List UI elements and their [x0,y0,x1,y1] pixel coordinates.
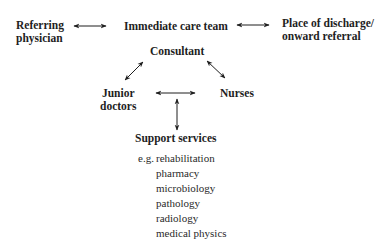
examples-prefix: e.g. [138,151,154,166]
referring-line-2: physician [16,32,64,45]
discharge-line-2: onward referral [282,30,374,43]
example-item: pharmacy [156,166,199,181]
node-nurses: Nurses [220,87,254,100]
referring-line-1: Referring [16,19,64,32]
node-referring-physician: Referring physician [16,19,64,45]
node-consultant: Consultant [150,45,204,58]
example-item: medical physics [156,226,227,241]
node-junior-doctors: Junior doctors [100,87,136,113]
junior-line-2: doctors [100,100,136,113]
example-item: microbiology [156,181,215,196]
arrow-consultant-junior [125,62,143,80]
node-immediate-care-team: Immediate care team [124,20,228,33]
discharge-line-1: Place of discharge/ [282,17,374,30]
example-item: pathology [156,196,200,211]
arrow-consultant-nurses [207,61,225,78]
junior-line-1: Junior [100,87,136,100]
example-item: rehabilitation [156,151,215,166]
example-item: radiology [156,211,198,226]
node-support-services: Support services [135,132,216,145]
node-place-of-discharge: Place of discharge/ onward referral [282,17,374,43]
